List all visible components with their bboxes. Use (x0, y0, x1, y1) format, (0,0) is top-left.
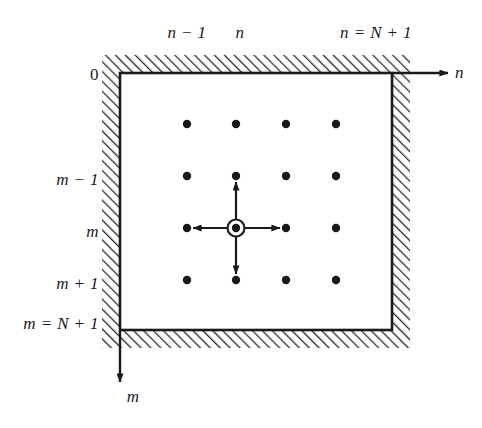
grid-node (183, 172, 191, 180)
label-m-plus-1: m + 1 (56, 275, 99, 292)
grid-node (332, 276, 340, 284)
grid-node (332, 172, 340, 180)
label-axis-m: m (127, 388, 140, 405)
label-m-minus-1: m − 1 (56, 171, 99, 188)
label-n-minus-1: n − 1 (168, 24, 207, 41)
grid-node-stencil-east (282, 224, 290, 232)
grid-node (332, 120, 340, 128)
grid-node (183, 276, 191, 284)
stencil-center-node (228, 220, 245, 237)
grid-node (332, 224, 340, 232)
grid-node-stencil-south (232, 276, 240, 284)
grid-node (282, 120, 290, 128)
grid-node (183, 120, 191, 128)
grid-node-stencil-north (232, 172, 240, 180)
grid-node (232, 120, 240, 128)
label-n-equals-N-plus-1: n = N + 1 (340, 24, 412, 41)
label-axis-n: n (455, 64, 464, 81)
grid-node-stencil-west (183, 224, 191, 232)
grid-node (282, 276, 290, 284)
domain-rectangle (120, 73, 392, 330)
grid-stencil-figure: n − 1 n n = N + 1 0 m − 1 m m + 1 m = N … (0, 0, 482, 428)
label-n: n (236, 24, 245, 41)
figure-canvas (0, 0, 482, 428)
label-zero: 0 (90, 66, 99, 83)
label-m: m (86, 223, 99, 240)
label-m-equals-N-plus-1: m = N + 1 (23, 315, 99, 332)
grid-node (282, 172, 290, 180)
